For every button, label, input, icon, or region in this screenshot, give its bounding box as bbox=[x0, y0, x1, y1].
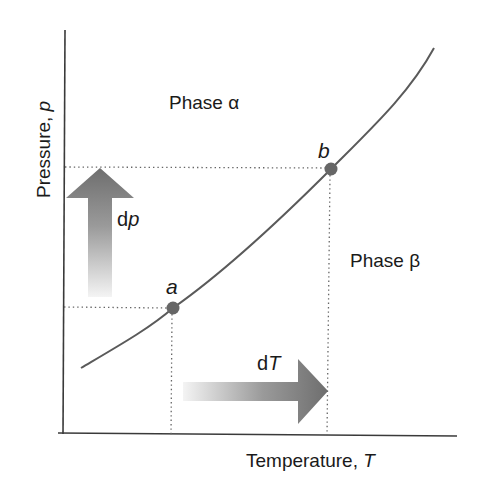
y-axis bbox=[63, 30, 65, 434]
guide-b-vertical bbox=[327, 175, 330, 436]
y-axis-label: Pressure, p bbox=[33, 101, 54, 198]
point-a-label: a bbox=[166, 275, 178, 298]
phase-diagram: Phase α Phase β b a dp dT Temperature, T… bbox=[0, 0, 480, 490]
dT-arrow bbox=[183, 359, 328, 424]
dT-label: dT bbox=[257, 352, 282, 374]
point-b-label: b bbox=[318, 139, 330, 162]
phase-beta-label: Phase β bbox=[350, 250, 420, 271]
x-axis bbox=[58, 433, 457, 436]
phase-alpha-label: Phase α bbox=[169, 92, 239, 113]
guide-a-vertical bbox=[171, 314, 172, 436]
dp-arrow bbox=[66, 168, 134, 297]
guide-b-horizontal bbox=[65, 167, 325, 168]
guide-a-horizontal bbox=[64, 307, 167, 308]
point-b-marker bbox=[325, 163, 338, 176]
dp-label: dp bbox=[117, 208, 139, 230]
x-axis-label: Temperature, T bbox=[246, 450, 376, 471]
point-a-marker bbox=[167, 302, 180, 315]
